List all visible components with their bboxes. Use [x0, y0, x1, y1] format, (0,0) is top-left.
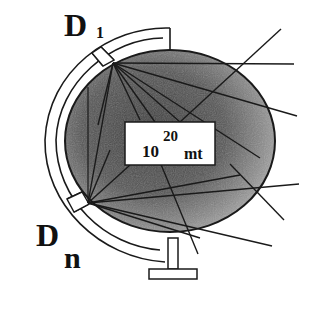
box-unit: mt	[184, 145, 203, 162]
label-dn-main: D	[36, 217, 59, 253]
label-d1-main: D	[64, 7, 87, 43]
box-base: 10	[142, 142, 159, 161]
label-dn-sub: n	[64, 241, 81, 274]
center-box: 10 20 mt	[125, 122, 215, 165]
label-d1: D 1	[64, 7, 104, 43]
globe-stand	[149, 238, 197, 279]
label-d1-sub: 1	[96, 24, 104, 41]
box-exponent: 20	[163, 128, 178, 144]
label-dn: D n	[36, 217, 81, 274]
globe-diagram: 10 20 mt D 1 D n	[0, 0, 310, 332]
